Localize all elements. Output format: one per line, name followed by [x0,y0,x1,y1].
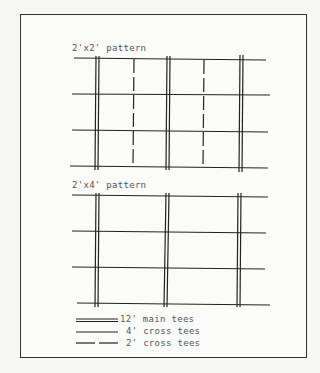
panel-title-2x2: 2'x2' pattern [72,43,146,53]
panel-title-2x4: 2'x4' pattern [72,180,146,190]
legend-symbols [76,319,118,343]
legend-2ft-cross-tees: 2' cross tees [126,338,200,348]
panel-2x2-grid [70,55,270,172]
panel-2x4-grid [72,193,270,307]
legend-main-tees: 12' main tees [120,314,194,324]
legend-4ft-cross-tees: 4' cross tees [126,326,200,336]
